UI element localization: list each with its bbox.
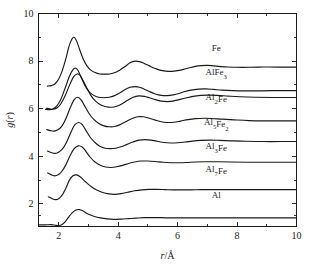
curve-al-baseline — [39, 210, 296, 226]
y-tick-label: 10 — [24, 8, 34, 19]
x-axis-title: r/Å — [161, 250, 176, 261]
series-label-al5fe2: Al5Fe2 — [204, 117, 229, 132]
y-tick-label: 8 — [29, 55, 34, 66]
axis-titles: r/Åg(r) — [4, 112, 175, 260]
curve-al — [48, 175, 296, 200]
axis-ticks — [39, 14, 297, 227]
axis-tick-labels: 246810246810 — [24, 8, 302, 241]
series-label-al3fe: Al3Fe — [206, 141, 227, 154]
plot-border — [39, 14, 297, 227]
x-tick-label: 2 — [56, 230, 61, 241]
series-label-alfe3: AlFe3 — [206, 67, 228, 80]
x-tick-label: 4 — [116, 230, 121, 241]
curve-al5fe2 — [47, 97, 297, 131]
data-curves — [39, 37, 296, 225]
curve-fe — [47, 37, 296, 86]
curve-al3fe — [47, 123, 296, 154]
series-label-al2fe: Al2Fe — [206, 92, 227, 105]
y-axis-title: g(r) — [4, 112, 16, 128]
series-label-fe: Fe — [212, 43, 221, 53]
plot-frame — [39, 14, 297, 227]
chart-plot-area: 246810246810 FeAlFe3Al2FeAl5Fe2Al3FeAl7F… — [0, 0, 311, 272]
series-label-al7fe: Al7Fe — [206, 164, 227, 177]
x-tick-label: 10 — [292, 230, 302, 241]
x-tick-label: 8 — [235, 230, 240, 241]
x-tick-label: 6 — [175, 230, 180, 241]
y-tick-label: 2 — [29, 198, 34, 209]
y-tick-label: 4 — [29, 151, 34, 162]
curve-al7fe — [48, 146, 297, 176]
y-tick-label: 6 — [29, 103, 34, 114]
series-label-al: Al — [212, 190, 221, 200]
chart-figure: 246810246810 FeAlFe3Al2FeAl5Fe2Al3FeAl7F… — [0, 0, 311, 272]
